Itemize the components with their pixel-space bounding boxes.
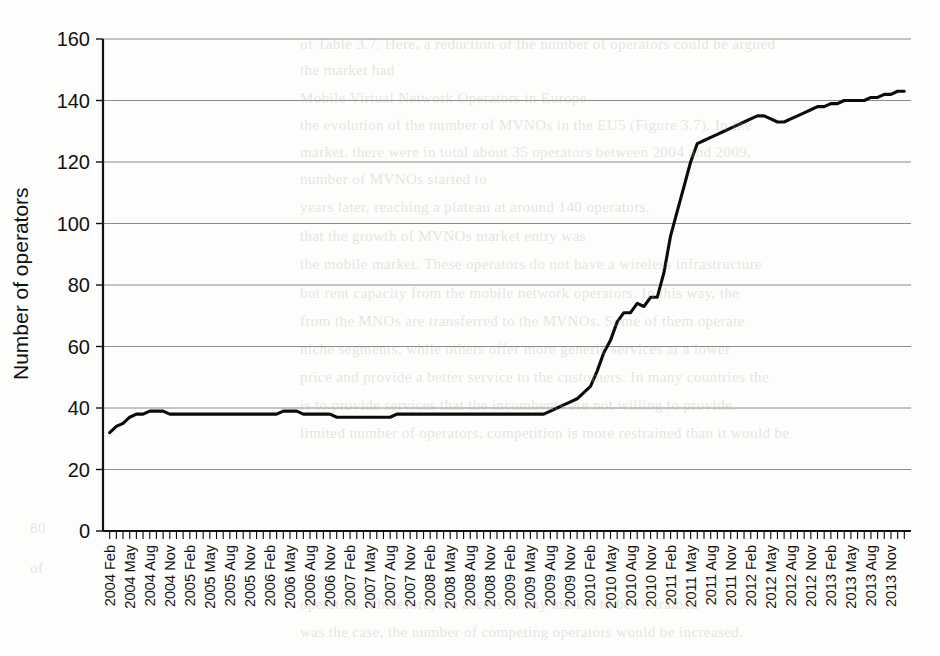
- line-chart-number-of-operators: Number of operators 02040608010012014016…: [0, 0, 940, 656]
- x-tick-label: 2005 May: [202, 544, 218, 608]
- x-tick-label: 2007 Nov: [402, 544, 418, 607]
- x-tick-label: 2004 Aug: [142, 545, 158, 606]
- x-tick-label: 2007 Aug: [382, 545, 398, 606]
- x-tick-label: 2008 May: [442, 544, 458, 608]
- y-tick-label: 40: [68, 397, 90, 419]
- y-tick-label: 140: [57, 90, 90, 112]
- x-tick-label: 2013 Nov: [883, 544, 899, 607]
- x-tick-label: 2013 Feb: [823, 545, 839, 606]
- x-tick-label: 2008 Aug: [462, 545, 478, 606]
- y-axis-title: Number of operators: [9, 187, 32, 380]
- x-tick-label: 2007 Feb: [342, 545, 358, 606]
- data-series-line: [110, 91, 905, 432]
- x-tick-label: 2004 Nov: [162, 544, 178, 607]
- x-tick-label: 2012 May: [763, 544, 779, 608]
- x-tick-label: 2006 Aug: [302, 545, 318, 606]
- y-tick-label: 80: [68, 274, 90, 296]
- y-axis-ticks: 020406080100120140160: [57, 28, 103, 542]
- y-tick-label: 0: [79, 520, 90, 542]
- y-tick-label: 20: [68, 459, 90, 481]
- x-tick-label: 2005 Nov: [242, 544, 258, 607]
- x-tick-label: 2010 May: [603, 544, 619, 608]
- x-tick-label: 2005 Aug: [222, 545, 238, 606]
- x-tick-label: 2013 May: [843, 544, 859, 608]
- x-tick-label: 2004 Feb: [102, 545, 118, 606]
- x-axis-labels: 2004 Feb2004 May2004 Aug2004 Nov2005 Feb…: [102, 544, 899, 608]
- y-tick-label: 100: [57, 213, 90, 235]
- x-tick-label: 2008 Feb: [422, 545, 438, 606]
- gridlines: [103, 39, 911, 470]
- x-tick-label: 2007 May: [362, 544, 378, 608]
- x-tick-label: 2004 May: [122, 544, 138, 608]
- x-axis-ticks: [110, 531, 905, 539]
- x-tick-label: 2006 Nov: [322, 544, 338, 607]
- x-tick-label: 2006 Feb: [262, 545, 278, 606]
- x-tick-label: 2012 Aug: [783, 545, 799, 606]
- x-tick-label: 2011 Nov: [723, 544, 739, 606]
- x-tick-label: 2011 May: [683, 544, 699, 607]
- x-tick-label: 2012 Feb: [743, 545, 759, 606]
- x-tick-label: 2010 Nov: [643, 544, 659, 607]
- x-tick-label: 2013 Aug: [863, 545, 879, 606]
- x-tick-label: 2010 Feb: [582, 545, 598, 606]
- y-tick-label: 160: [57, 28, 90, 50]
- x-tick-label: 2006 May: [282, 544, 298, 608]
- x-tick-label: 2005 Feb: [182, 545, 198, 606]
- y-tick-label: 120: [57, 151, 90, 173]
- x-tick-label: 2009 May: [522, 544, 538, 608]
- x-tick-label: 2009 Aug: [542, 545, 558, 606]
- figure-mvno-operators: of Table 3.7. Here, a reduction of the n…: [0, 0, 940, 656]
- x-tick-label: 2011 Aug: [703, 545, 719, 605]
- x-tick-label: 2009 Nov: [562, 544, 578, 607]
- x-tick-label: 2012 Nov: [803, 544, 819, 607]
- y-tick-label: 60: [68, 336, 90, 358]
- x-tick-label: 2008 Nov: [482, 544, 498, 607]
- x-tick-label: 2010 Aug: [623, 545, 639, 606]
- x-tick-label: 2009 Feb: [502, 545, 518, 606]
- x-tick-label: 2011 Feb: [663, 545, 679, 605]
